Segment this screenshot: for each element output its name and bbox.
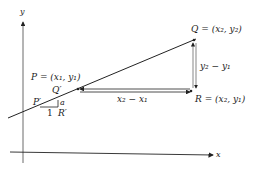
point-q bbox=[193, 39, 196, 42]
x-axis-label: x bbox=[216, 151, 221, 159]
x-axis bbox=[10, 152, 213, 155]
label-q: Q = (x₂, y₂) bbox=[191, 25, 242, 34]
label-r-prime: R′ bbox=[58, 109, 67, 118]
label-horizontal-distance: x₂ − x₁ bbox=[117, 95, 148, 104]
point-p bbox=[77, 88, 80, 91]
slope-diagram: y x P = (x₁, y₁) Q = (x₂, y₂) R = (x₂, y… bbox=[0, 0, 254, 170]
label-q-prime: Q′ bbox=[52, 86, 61, 95]
label-vertical-distance: y₂ − y₁ bbox=[200, 62, 231, 71]
label-rise-a: a bbox=[60, 99, 65, 107]
label-r: R = (x₂, y₁) bbox=[195, 95, 245, 104]
label-p: P = (x₁, y₁) bbox=[31, 73, 80, 82]
label-p-prime: P′ bbox=[33, 98, 41, 107]
label-run-one: 1 bbox=[47, 109, 53, 118]
y-axis-label: y bbox=[20, 8, 25, 16]
point-r bbox=[190, 90, 193, 93]
